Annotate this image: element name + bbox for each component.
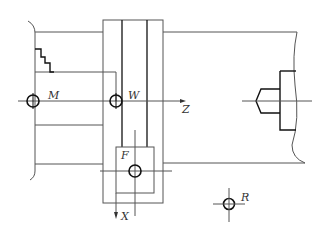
tailstock: [163, 32, 312, 163]
label-machine-origin: M: [47, 89, 60, 102]
label-tool-reference: F: [120, 149, 129, 162]
label-workpiece-origin: W: [128, 89, 141, 102]
x-axis-arrowhead: [114, 212, 118, 219]
lathe-coordinate-diagram: M W Z X F R: [0, 0, 323, 240]
label-z-axis: Z: [181, 103, 190, 116]
workpiece-steps: [35, 49, 54, 72]
label-x-axis: X: [120, 210, 130, 223]
label-reference-point: R: [240, 191, 249, 204]
